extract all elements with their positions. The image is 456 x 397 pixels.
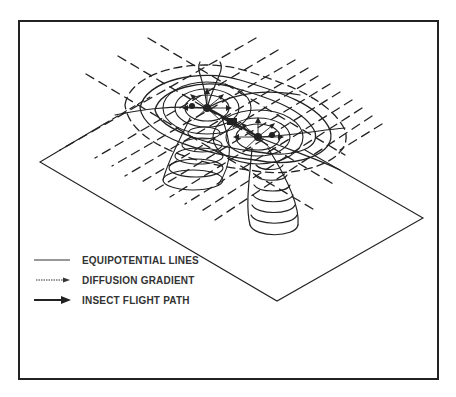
legend-label: DIFFUSION GRADIENT	[82, 275, 195, 286]
legend: EQUIPOTENTIAL LINES DIFFUSION GRADIENT I…	[34, 250, 199, 310]
solid-line-icon	[34, 255, 72, 265]
legend-label: INSECT FLIGHT PATH	[82, 295, 190, 306]
grid-lines-nw-se	[86, 38, 345, 212]
bold-arrow-icon	[34, 295, 72, 305]
legend-item-diffusion: DIFFUSION GRADIENT	[34, 270, 199, 290]
legend-label: EQUIPOTENTIAL LINES	[82, 255, 199, 266]
source-right-point	[254, 133, 262, 141]
source-left-point	[203, 104, 211, 112]
right-plume-cone	[248, 148, 298, 235]
legend-item-equipotential: EQUIPOTENTIAL LINES	[34, 250, 199, 270]
diffusion-diagram	[0, 0, 456, 397]
insect-marker	[227, 118, 237, 125]
legend-item-flight: INSECT FLIGHT PATH	[34, 290, 199, 310]
dotted-arrow-icon	[34, 275, 72, 285]
